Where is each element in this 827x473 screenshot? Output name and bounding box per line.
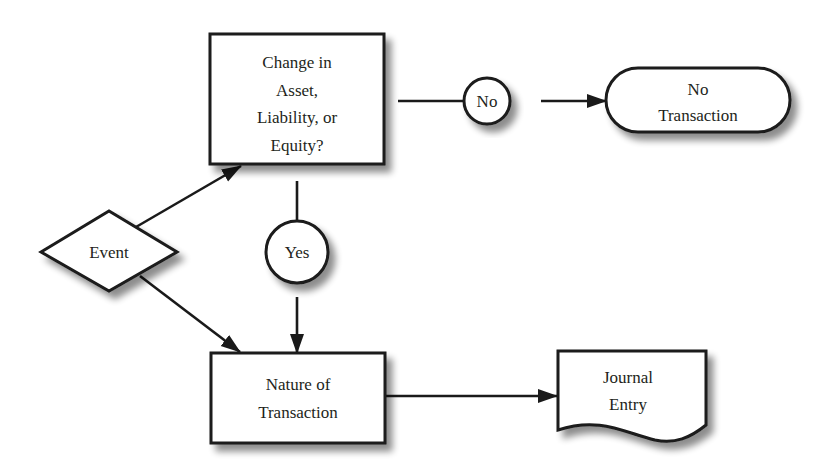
flowchart-canvas: Event Change in Asset, Liability, or Equ… <box>0 0 827 473</box>
no-connector-node: No <box>464 78 510 124</box>
journal-entry-line-2: Entry <box>609 395 647 414</box>
journal-entry-line-1: Journal <box>603 368 653 387</box>
no-transaction-terminal-node: No Transaction <box>606 68 790 132</box>
nature-line-1: Nature of <box>266 375 331 394</box>
nature-line-2: Transaction <box>258 403 338 422</box>
event-label: Event <box>89 243 129 262</box>
flowchart-svg: Event Change in Asset, Liability, or Equ… <box>0 0 827 473</box>
no-transaction-line-2: Transaction <box>658 106 738 125</box>
change-question-line-3: Liability, or <box>257 108 337 127</box>
change-question-line-4: Equity? <box>271 136 324 155</box>
yes-connector-node: Yes <box>266 221 328 283</box>
change-question-line-1: Change in <box>262 53 332 72</box>
change-question-line-2: Asset, <box>276 81 318 100</box>
no-transaction-line-1: No <box>688 80 709 99</box>
yes-connector-label: Yes <box>285 243 310 262</box>
nature-of-transaction-node: Nature of Transaction <box>211 353 385 443</box>
journal-entry-document-node: Journal Entry <box>558 351 706 441</box>
edge-event-to-change <box>136 166 241 227</box>
no-connector-label: No <box>477 92 498 111</box>
event-decision-node: Event <box>41 211 177 291</box>
change-question-node: Change in Asset, Liability, or Equity? <box>210 34 384 164</box>
edge-event-to-nature <box>140 276 240 352</box>
